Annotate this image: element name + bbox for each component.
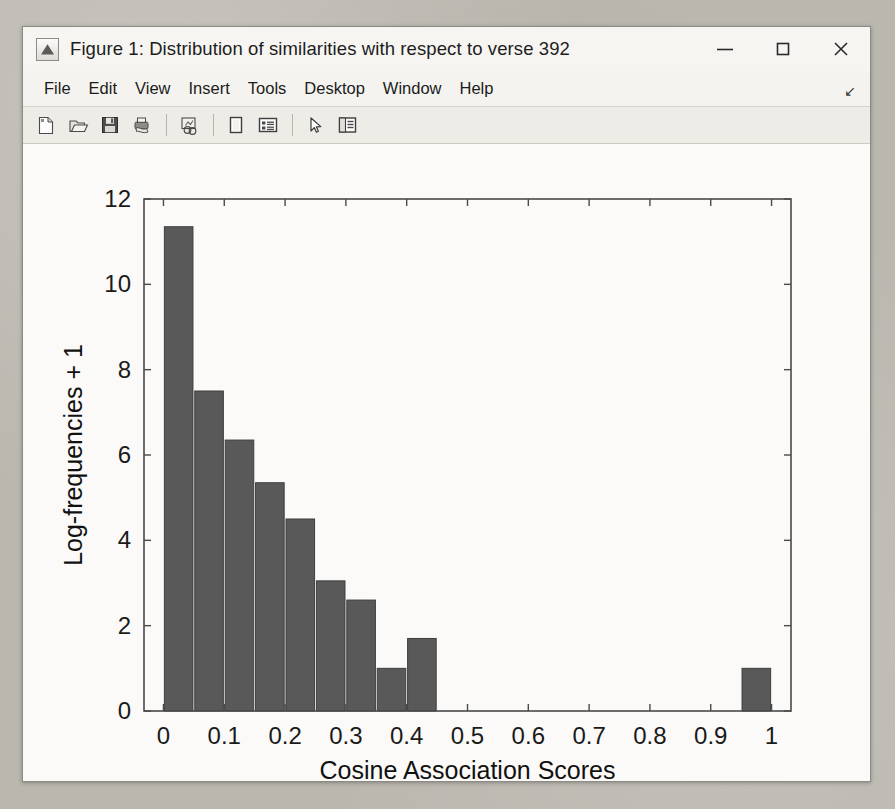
y-axis-label: Log-frequencies + 1 (59, 344, 87, 566)
menu-item-desktop[interactable]: Desktop (295, 77, 374, 100)
x-tick-label: 1 (765, 722, 778, 749)
x-tick-label: 0.4 (390, 722, 423, 749)
figure-window: Figure 1: Distribution of similarities w… (22, 26, 871, 782)
toolbar-separator-3 (292, 114, 293, 136)
histogram-bar (347, 600, 376, 711)
x-tick-label: 0 (157, 722, 170, 749)
x-tick-label: 0.3 (329, 722, 362, 749)
menu-item-view[interactable]: View (126, 77, 179, 100)
y-tick-label: 8 (118, 356, 131, 383)
open-file-button[interactable] (63, 111, 93, 139)
edit-plot-button[interactable] (300, 111, 330, 139)
menu-overflow-icon[interactable]: ↘ (844, 83, 856, 99)
link-plot-icon (179, 115, 200, 135)
arrow-pointer-icon (306, 115, 324, 135)
toolbar-separator-2 (213, 114, 214, 136)
x-tick-label: 0.1 (208, 722, 241, 749)
histogram-bar (408, 638, 437, 711)
menu-item-help[interactable]: Help (451, 77, 503, 100)
title-bar: Figure 1: Distribution of similarities w… (23, 27, 870, 71)
histogram-bar (195, 391, 224, 711)
hide-plot-tools-button[interactable] (332, 111, 362, 139)
save-figure-button[interactable] (95, 111, 125, 139)
window-controls (696, 27, 870, 71)
plot-tools-panel-icon (337, 115, 358, 135)
y-tick-label: 10 (104, 270, 131, 297)
menu-item-window[interactable]: Window (374, 77, 451, 100)
floppy-disk-save-icon (100, 115, 120, 135)
insert-legend-button[interactable] (253, 111, 283, 139)
colorbar-icon (227, 115, 245, 135)
figure-canvas[interactable]: 00.10.20.30.40.50.60.70.80.91024681012Co… (23, 144, 870, 782)
matlab-figure-icon (36, 38, 59, 61)
histogram-bar (377, 668, 406, 711)
y-tick-label: 12 (104, 185, 131, 212)
menu-item-tools[interactable]: Tools (239, 77, 296, 100)
minimize-button[interactable] (696, 27, 754, 71)
x-tick-label: 0.9 (694, 722, 727, 749)
histogram-bar (225, 440, 254, 711)
legend-icon (257, 115, 279, 135)
menu-item-file[interactable]: File (35, 77, 80, 100)
print-figure-button[interactable] (127, 111, 157, 139)
x-tick-label: 0.2 (268, 722, 301, 749)
histogram-bar (742, 668, 771, 711)
maximize-button[interactable] (754, 27, 812, 71)
toolbar (23, 107, 870, 144)
y-tick-label: 0 (118, 697, 131, 724)
x-tick-label: 0.5 (451, 722, 484, 749)
histogram-bar (164, 227, 193, 711)
x-tick-label: 0.6 (512, 722, 545, 749)
window-title: Figure 1: Distribution of similarities w… (70, 38, 570, 60)
menu-bar: File Edit View Insert Tools Desktop Wind… (23, 71, 870, 107)
histogram-bar (316, 581, 345, 711)
histogram-bar (286, 519, 315, 711)
menu-item-edit[interactable]: Edit (80, 77, 126, 100)
histogram-plot[interactable]: 00.10.20.30.40.50.60.70.80.91024681012Co… (23, 144, 871, 782)
x-tick-label: 0.8 (633, 722, 666, 749)
menu-item-insert[interactable]: Insert (180, 77, 239, 100)
close-button[interactable] (812, 27, 870, 71)
histogram-bar (256, 483, 285, 711)
toolbar-separator-1 (166, 114, 167, 136)
insert-colorbar-button[interactable] (221, 111, 251, 139)
y-tick-label: 4 (118, 526, 131, 553)
new-document-icon (36, 115, 56, 136)
open-folder-icon (68, 116, 89, 135)
x-axis-label: Cosine Association Scores (320, 756, 616, 782)
printer-icon (131, 115, 153, 135)
y-tick-label: 2 (118, 612, 131, 639)
y-tick-label: 6 (118, 441, 131, 468)
link-plot-button[interactable] (174, 111, 204, 139)
x-tick-label: 0.7 (572, 722, 605, 749)
new-figure-button[interactable] (31, 111, 61, 139)
